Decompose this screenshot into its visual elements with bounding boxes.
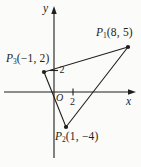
point-label-p2: P2(1, −4)	[55, 131, 99, 143]
triangle-outline	[44, 47, 128, 127]
origin-label: O	[56, 93, 63, 103]
p1-coordinates: (8, 5)	[107, 26, 133, 38]
p3-symbol: P	[6, 52, 13, 64]
point-label-p3: P3(−1, 2)	[6, 53, 50, 65]
x-axis-label: x	[126, 96, 131, 108]
x-tick-label: 2	[70, 97, 75, 107]
point-dot-p1	[126, 45, 130, 49]
y-axis-label: y	[43, 3, 48, 15]
p3-coordinates: (−1, 2)	[17, 52, 50, 64]
p2-coordinates: (1, −4)	[66, 130, 99, 142]
point-dot-p2	[64, 125, 68, 129]
coordinate-plane-figure: y x O 2 2 P1(8, 5) P3(−1, 2) P2(1, −4)	[0, 0, 141, 167]
point-dot-p3	[42, 70, 46, 74]
p1-symbol: P	[96, 26, 103, 38]
y-tick-label: 2	[60, 65, 65, 75]
p2-symbol: P	[55, 130, 62, 142]
y-axis-arrowhead	[51, 6, 56, 14]
x-axis-arrowhead	[128, 89, 136, 94]
point-label-p1: P1(8, 5)	[96, 27, 133, 39]
